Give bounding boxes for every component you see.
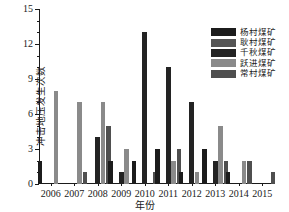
y-tick-mark [35, 114, 39, 115]
legend-item[interactable]: 耿村煤矿 [211, 37, 287, 47]
bar [271, 172, 276, 184]
legend-label: 常村煤矿 [240, 69, 276, 78]
y-minor-tick [37, 102, 39, 103]
legend-item[interactable]: 杨村煤矿 [211, 27, 287, 37]
y-tick-mark [35, 149, 39, 150]
x-tick-mark [51, 183, 52, 186]
legend-label: 跃进煤矿 [240, 59, 276, 68]
bar [119, 172, 124, 184]
x-tick-label: 2015 [252, 188, 272, 199]
x-tick-label: 2010 [135, 188, 155, 199]
legend-label: 千秋煤矿 [240, 48, 276, 57]
bar [213, 161, 218, 184]
bar [108, 161, 113, 184]
legend-label: 杨村煤矿 [240, 28, 276, 37]
y-tick-label: 9 [28, 74, 33, 84]
bar [242, 161, 247, 184]
bar [54, 91, 59, 184]
y-minor-tick [37, 126, 39, 127]
bar [38, 161, 43, 184]
x-tick-mark [74, 183, 75, 186]
y-tick-mark [35, 44, 39, 45]
y-minor-tick [37, 67, 39, 68]
bar [195, 172, 200, 184]
x-tick-label: 2012 [182, 188, 202, 199]
y-axis-line [39, 9, 40, 184]
legend-swatch-icon [211, 39, 236, 47]
y-tick-mark [35, 184, 39, 185]
bar [202, 149, 207, 184]
bar [95, 137, 100, 184]
legend-item[interactable]: 跃进煤矿 [211, 58, 287, 68]
y-tick-label: 3 [28, 144, 33, 154]
bar [132, 161, 137, 184]
bar [166, 67, 171, 184]
bar [226, 172, 231, 184]
x-tick-mark [262, 183, 263, 186]
y-minor-tick [37, 21, 39, 22]
x-tick-label: 2008 [88, 188, 108, 199]
legend-swatch-icon [211, 59, 236, 67]
bar [142, 32, 147, 184]
y-tick-label: 15 [23, 4, 33, 14]
bar [77, 102, 82, 184]
y-tick-label: 12 [23, 39, 33, 49]
bar [247, 161, 252, 184]
x-tick-label: 2007 [64, 188, 84, 199]
x-axis-title: 年份 [0, 200, 289, 211]
y-minor-tick [37, 137, 39, 138]
bar [101, 102, 106, 184]
x-tick-label: 2013 [205, 188, 225, 199]
y-minor-tick [37, 91, 39, 92]
bar [218, 126, 223, 184]
legend-label: 耿村煤矿 [240, 38, 276, 47]
legend-item[interactable]: 千秋煤矿 [211, 48, 287, 58]
y-tick-mark [35, 79, 39, 80]
y-tick-label: 0 [28, 179, 33, 189]
legend-item[interactable]: 常村煤矿 [211, 69, 287, 79]
legend-swatch-icon [211, 49, 236, 57]
legend: 杨村煤矿耿村煤矿千秋煤矿跃进煤矿常村煤矿 [211, 27, 287, 79]
bar [171, 161, 176, 184]
x-tick-label: 2006 [41, 188, 61, 199]
x-tick-mark [239, 183, 240, 186]
x-tick-label: 2011 [158, 188, 178, 199]
x-tick-label: 2014 [229, 188, 249, 199]
y-tick-mark [35, 9, 39, 10]
y-minor-tick [37, 32, 39, 33]
legend-swatch-icon [211, 28, 236, 36]
legend-swatch-icon [211, 70, 236, 78]
bar [155, 149, 160, 184]
bar [189, 102, 194, 184]
bar [124, 149, 129, 184]
y-tick-label: 6 [28, 109, 33, 119]
y-minor-tick [37, 56, 39, 57]
bar [179, 172, 184, 184]
bar [83, 172, 88, 184]
bar-chart: 冲击地压发生次数 年份 03691215 2006200720082009201… [0, 0, 289, 212]
x-tick-label: 2009 [111, 188, 131, 199]
